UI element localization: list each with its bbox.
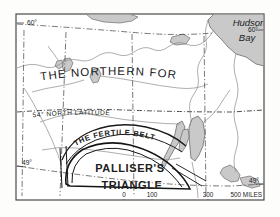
map-canvas: THE NORTHERN FOREST THE FERTILE BELT 54°… (0, 0, 280, 217)
scale-label-0: 0 (122, 191, 126, 198)
scale-label-500-miles: 500 MILES (230, 191, 262, 198)
label-lat60-right: 60° (248, 26, 258, 33)
label-lat60-left: 60° (27, 19, 37, 26)
label-pallisers-line2: TRIANGLE (101, 179, 162, 191)
label-hudson-bay-line2: Bay (239, 32, 257, 43)
label-lat49-left: 49° (22, 159, 32, 166)
map-figure: THE NORTHERN FOREST THE FERTILE BELT 54°… (0, 0, 280, 217)
scale-label-100: 100 (147, 191, 158, 198)
scale-label-300: 300 (203, 191, 214, 198)
label-pallisers-line1: PALLISER'S (95, 162, 165, 174)
label-lat49-right: 49° (249, 177, 259, 184)
